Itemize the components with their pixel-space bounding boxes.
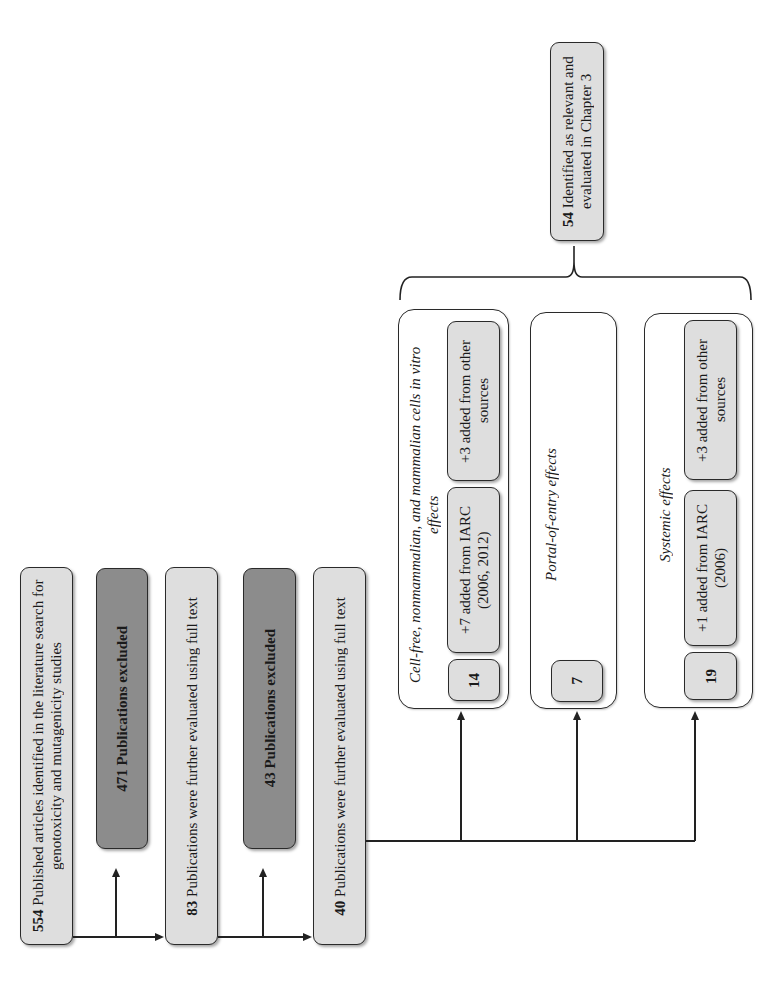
curly-bracket (0, 0, 777, 1005)
final-54-count: 54 (560, 212, 576, 227)
final-54-text: 54 Identified as relevant and evaluated … (559, 43, 595, 240)
final-54-box: 54 Identified as relevant and evaluated … (550, 42, 604, 241)
final-54-label: Identified as relevant and evaluated in … (560, 56, 594, 212)
